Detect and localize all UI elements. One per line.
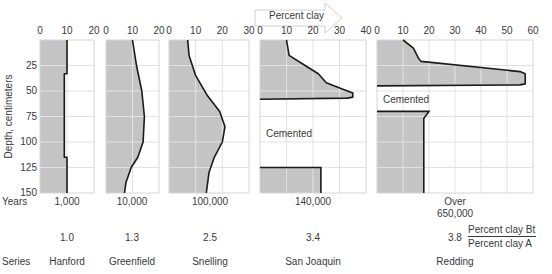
x-tick-san-joaquin-20: 20: [307, 25, 319, 36]
x-tick-san-joaquin-40: 40: [360, 25, 372, 36]
soil-clay-chart: 255075100125150Depth, centimeters0102001…: [0, 0, 552, 274]
x-tick-hanford-10: 10: [61, 25, 73, 36]
x-tick-san-joaquin-30: 30: [334, 25, 346, 36]
ratio-denominator: Percent clay A: [468, 237, 536, 249]
x-tick-san-joaquin-0: 0: [257, 25, 263, 36]
cemented-label-redding: Cemented: [383, 94, 429, 105]
x-tick-redding-20: 20: [423, 25, 435, 36]
x-tick-greenfield-20: 20: [153, 25, 165, 36]
x-tick-greenfield-10: 10: [127, 25, 139, 36]
years-redding: Over 650,000: [437, 196, 473, 220]
x-tick-hanford-0: 0: [37, 25, 43, 36]
x-tick-redding-40: 40: [475, 25, 487, 36]
x-tick-redding-0: 0: [374, 25, 380, 36]
series-snelling: Snelling: [192, 256, 228, 267]
y-tick-125: 125: [20, 162, 37, 173]
series-row-label: Series: [2, 256, 30, 267]
series-hanford: Hanford: [49, 256, 85, 267]
x-tick-snelling-10: 10: [190, 25, 202, 36]
series-redding: Redding: [436, 256, 473, 267]
cemented-label-san-joaquin: Cemented: [266, 128, 312, 139]
ratio-hanford: 1.0: [60, 232, 74, 243]
arrow-label: Percent clay: [269, 10, 324, 21]
y-axis-label: Depth, centimeters: [3, 75, 14, 159]
x-tick-snelling-20: 20: [217, 25, 229, 36]
x-tick-san-joaquin-10: 10: [281, 25, 293, 36]
ratio-numerator: Percent clay Bt: [468, 224, 536, 237]
ratio-greenfield: 1.3: [125, 232, 139, 243]
years-row-label: Years: [2, 196, 27, 207]
x-tick-redding-60: 60: [527, 25, 539, 36]
x-tick-redding-10: 10: [397, 25, 409, 36]
y-tick-75: 75: [26, 111, 38, 122]
x-tick-redding-50: 50: [501, 25, 513, 36]
years-greenfield: 10,000: [117, 196, 148, 207]
ratio-definition: Percent clay Bt Percent clay A: [468, 224, 536, 249]
clay-fill-lower-san-joaquin: [260, 168, 321, 194]
ratio-redding: 3.8: [448, 232, 462, 243]
ratio-snelling: 2.5: [203, 232, 217, 243]
y-tick-25: 25: [26, 60, 38, 71]
x-tick-redding-30: 30: [449, 25, 461, 36]
y-tick-50: 50: [26, 85, 38, 96]
series-greenfield: Greenfield: [109, 256, 155, 267]
years-snelling: 100,000: [192, 196, 228, 207]
y-tick-100: 100: [20, 136, 37, 147]
ratio-san-joaquin: 3.4: [306, 232, 320, 243]
series-san-joaquin: San Joaquin: [285, 256, 341, 267]
x-tick-hanford-20: 20: [88, 25, 100, 36]
x-tick-greenfield-0: 0: [103, 25, 109, 36]
years-san-joaquin: 140,000: [295, 196, 331, 207]
x-tick-snelling-0: 0: [166, 25, 172, 36]
years-hanford: 1,000: [54, 196, 79, 207]
x-tick-snelling-30: 30: [243, 25, 255, 36]
